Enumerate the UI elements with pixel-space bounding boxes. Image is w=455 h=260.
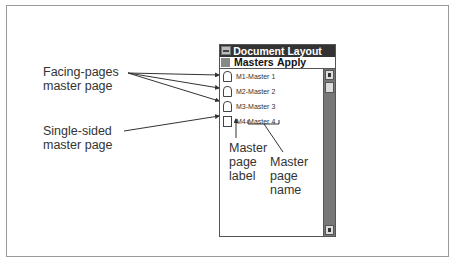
leader-lines [0, 0, 455, 260]
